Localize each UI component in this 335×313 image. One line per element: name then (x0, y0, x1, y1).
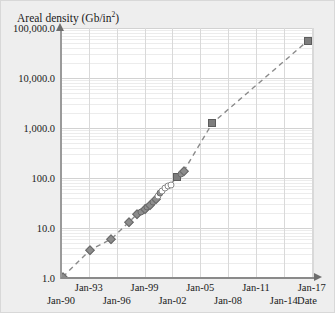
data-point (208, 119, 216, 127)
trendline (61, 28, 314, 278)
y-tick-label: 100,000.0 (13, 23, 55, 34)
x-tick-label: Jan-11 (242, 282, 270, 293)
x-tick-label: Jan-02 (158, 295, 186, 306)
y-tick-label: 10.0 (37, 223, 55, 234)
x-axis-line (61, 277, 316, 279)
data-point (167, 181, 174, 188)
y-tick-label: 10,000.0 (18, 73, 55, 84)
y-tick-label: 1.0 (42, 273, 55, 284)
x-axis-title: Date (297, 295, 317, 306)
chart-figure: Areal density (Gb/in2) 100,000.010,000.0… (0, 0, 335, 313)
y-tick-label: 100.0 (31, 173, 55, 184)
x-tick-label: Jan-08 (214, 295, 242, 306)
x-tick-label: Jan-93 (75, 282, 103, 293)
x-tick-label: Jan-96 (103, 295, 131, 306)
y-axis-line (60, 31, 62, 279)
x-tick-label: Jan-99 (131, 282, 159, 293)
plot-area (61, 28, 314, 278)
x-tick-label: Jan-05 (186, 282, 214, 293)
data-point (304, 37, 312, 45)
x-axis-arrow-icon (314, 273, 322, 281)
y-axis-arrow-icon (56, 23, 64, 31)
y-axis-title-tail: ) (115, 12, 119, 24)
x-tick-label: Jan-17 (298, 282, 326, 293)
y-tick-label: 1,000.0 (24, 123, 56, 134)
x-tick-label: Jan-14 (270, 295, 298, 306)
x-tick-label: Jan-90 (47, 295, 75, 306)
